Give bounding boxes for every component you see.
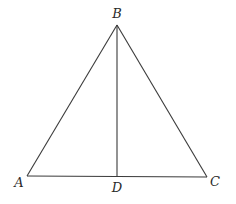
label-a: A — [13, 175, 23, 190]
triangle-diagram: B A D C — [0, 0, 236, 204]
segment-bc — [117, 25, 207, 177]
label-c: C — [210, 174, 220, 189]
label-b: B — [111, 6, 122, 21]
segment-ab — [27, 25, 117, 176]
label-d: D — [111, 180, 123, 195]
